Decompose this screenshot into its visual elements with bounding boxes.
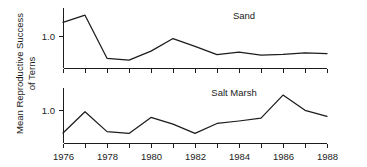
xticklabel-1982: 1982 (185, 151, 206, 162)
xticklabel-1986: 1986 (273, 151, 294, 162)
panel-salt-marsh: 1.0 Salt Marsh (42, 87, 328, 148)
xticklabel-1978: 1978 (97, 151, 118, 162)
xticklabel-1984: 1984 (229, 151, 250, 162)
saltmarsh-yticklabel-1.0: 1.0 (42, 105, 55, 116)
panel-sand: 1.0 Sand (42, 8, 328, 73)
panel-label-salt-marsh: Salt Marsh (211, 87, 256, 98)
xticklabel-1980: 1980 (141, 151, 162, 162)
chart-plot-area: 1.0 Sand 1.0 (0, 0, 367, 167)
tern-reproductive-success-chart: Mean Reproductive Success of Terns 1.0 (0, 0, 367, 167)
sand-x-ticks (64, 69, 328, 74)
saltmarsh-data-line (63, 95, 327, 133)
xticklabel-1988: 1988 (317, 151, 338, 162)
sand-data-line (63, 15, 327, 60)
panel-label-sand: Sand (233, 10, 255, 21)
sand-yticklabel-1.0: 1.0 (42, 31, 55, 42)
saltmarsh-x-ticks (64, 144, 328, 149)
xticklabel-1976: 1976 (53, 151, 74, 162)
x-axis-tick-labels: 1976 1978 1980 1982 1984 1986 1988 (53, 151, 338, 162)
